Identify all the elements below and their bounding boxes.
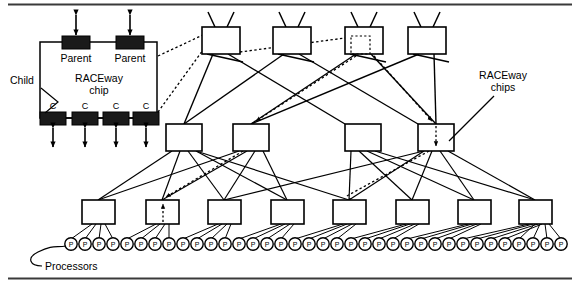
processor-node[interactable]: P — [471, 238, 483, 250]
processor-row: P P P P P P P P P P P P P P P P P P P P … — [65, 238, 567, 250]
parent-block-right[interactable] — [116, 36, 144, 49]
mid-switch-4[interactable] — [418, 124, 454, 151]
mid-switch-1[interactable] — [166, 124, 202, 151]
processor-node[interactable]: P — [429, 238, 441, 250]
processor-label: P — [251, 241, 256, 248]
processor-node[interactable]: P — [65, 238, 77, 250]
processor-label: P — [363, 241, 368, 248]
processor-node[interactable]: P — [415, 238, 427, 250]
child-label: Child — [10, 74, 34, 86]
root-stub-strokes — [207, 54, 449, 62]
processor-node[interactable]: P — [177, 238, 189, 250]
leaf-switch-5[interactable] — [333, 200, 366, 224]
processor-node[interactable]: P — [149, 238, 161, 250]
processor-node[interactable]: P — [485, 238, 497, 250]
processor-label: P — [279, 241, 284, 248]
processor-label: P — [433, 241, 438, 248]
root-switch-4[interactable] — [408, 12, 446, 54]
mid-to-leaf-links — [98, 151, 535, 200]
processor-node[interactable]: P — [205, 238, 217, 250]
parent-label-right: Parent — [115, 52, 146, 64]
processor-node[interactable]: P — [79, 238, 91, 250]
processor-node[interactable]: P — [541, 238, 553, 250]
child-block-3[interactable] — [103, 112, 129, 125]
root-switch-3[interactable] — [345, 12, 383, 54]
processor-label: P — [167, 241, 172, 248]
processor-node[interactable]: P — [513, 238, 525, 250]
root-switch-1[interactable] — [202, 12, 240, 54]
leaf-fan-8 — [463, 224, 542, 239]
leaf-fan-6 — [351, 224, 419, 239]
chip-title-line1: RACEway — [75, 72, 124, 84]
processor-label: P — [545, 241, 550, 248]
processor-node[interactable]: P — [555, 238, 567, 250]
processor-node[interactable]: P — [303, 238, 315, 250]
mid-switch-2[interactable] — [233, 124, 269, 151]
processor-label: P — [209, 241, 214, 248]
child-block-2[interactable] — [72, 112, 98, 125]
processor-node[interactable]: P — [261, 238, 273, 250]
leaf-fan-2 — [127, 224, 169, 239]
child-block-1[interactable] — [40, 112, 66, 125]
leaf-fan-3 — [183, 224, 231, 239]
processor-label: P — [531, 241, 536, 248]
mid-switch-3[interactable] — [345, 124, 381, 151]
processor-label: P — [475, 241, 480, 248]
leaf-switch-3[interactable] — [208, 200, 241, 224]
processor-label: P — [559, 241, 564, 248]
processor-label: P — [125, 241, 130, 248]
processor-label: P — [405, 241, 410, 248]
processor-label: P — [377, 241, 382, 248]
processor-node[interactable]: P — [219, 238, 231, 250]
processor-label: P — [153, 241, 158, 248]
processor-label: P — [111, 241, 116, 248]
leaf-switch-7[interactable] — [458, 200, 491, 224]
leaf-switch-4[interactable] — [271, 200, 304, 224]
parent-label-left: Parent — [61, 52, 92, 64]
raceway-chips-label-line1: RACEway — [479, 69, 528, 81]
processor-node[interactable]: P — [93, 238, 105, 250]
parent-block-left[interactable] — [62, 36, 90, 49]
processor-label: P — [503, 241, 508, 248]
processor-node[interactable]: P — [191, 238, 203, 250]
processor-label: P — [447, 241, 452, 248]
processor-label: P — [419, 241, 424, 248]
processor-node[interactable]: P — [233, 238, 245, 250]
processor-node[interactable]: P — [499, 238, 511, 250]
processor-node[interactable]: P — [359, 238, 371, 250]
leaf-switch-6[interactable] — [396, 200, 429, 224]
leaf-switch-8[interactable] — [519, 200, 552, 224]
processor-node[interactable]: P — [121, 238, 133, 250]
processor-label: P — [181, 241, 186, 248]
processor-node[interactable]: P — [443, 238, 455, 250]
processor-label: P — [293, 241, 298, 248]
processor-node[interactable]: P — [527, 238, 539, 250]
processor-node[interactable]: P — [275, 238, 287, 250]
raceway-chips-callout: RACEway chips — [449, 69, 528, 141]
processor-label: P — [391, 241, 396, 248]
processor-label: P — [349, 241, 354, 248]
processor-node[interactable]: P — [373, 238, 385, 250]
processor-node[interactable]: P — [345, 238, 357, 250]
processor-label: P — [307, 241, 312, 248]
processor-node[interactable]: P — [163, 238, 175, 250]
leaf-fan-5 — [295, 224, 356, 239]
processor-label: P — [265, 241, 270, 248]
leaf-to-processor-links — [71, 224, 561, 239]
processor-node[interactable]: P — [289, 238, 301, 250]
leaf-fan-4 — [239, 224, 294, 239]
processor-node[interactable]: P — [457, 238, 469, 250]
processor-node[interactable]: P — [317, 238, 329, 250]
processor-label: P — [97, 241, 102, 248]
leaf-switch-1[interactable] — [82, 200, 115, 224]
processor-label: P — [489, 241, 494, 248]
processor-node[interactable]: P — [331, 238, 343, 250]
processor-label: P — [139, 241, 144, 248]
root-switch-2[interactable] — [273, 12, 311, 54]
processor-node[interactable]: P — [387, 238, 399, 250]
processor-node[interactable]: P — [107, 238, 119, 250]
child-block-4[interactable] — [133, 112, 159, 125]
processor-node[interactable]: P — [135, 238, 147, 250]
processor-node[interactable]: P — [247, 238, 259, 250]
processor-node[interactable]: P — [401, 238, 413, 250]
